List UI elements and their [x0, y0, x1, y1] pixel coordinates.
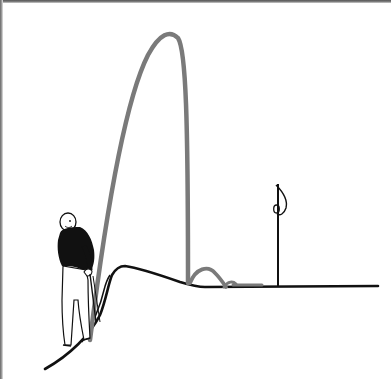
flag-icon	[274, 185, 287, 215]
golfer-trousers	[62, 266, 90, 345]
golf-scene	[0, 0, 391, 379]
illustration-frame	[0, 0, 391, 379]
ball-bounce-1	[190, 269, 226, 287]
ball-trajectory	[90, 34, 188, 340]
